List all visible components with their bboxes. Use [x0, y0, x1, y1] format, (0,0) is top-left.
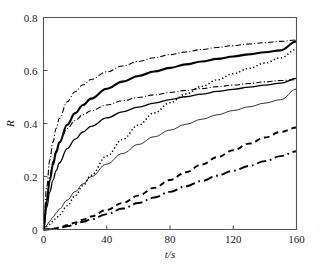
chart-curve-curve-6 — [44, 89, 297, 229]
y-tick-label: 0.4 — [24, 118, 38, 130]
x-tick-label: 160 — [288, 233, 305, 245]
x-tick-label: 0 — [41, 233, 47, 245]
chart-curve-curve-2 — [44, 41, 297, 229]
chart-curve-curve-4 — [44, 78, 297, 229]
y-tick-label: 0.8 — [24, 12, 38, 24]
x-tick-label: 80 — [165, 233, 177, 245]
y-axis-title: R — [4, 120, 16, 128]
y-axis-tick-labels: 00.20.40.60.8 — [24, 12, 38, 236]
chart-series-group — [44, 40, 297, 229]
y-tick-label: 0.2 — [24, 171, 38, 183]
x-axis-title: t/s — [165, 248, 175, 260]
chart-curve-curve-8 — [44, 151, 297, 229]
chart-curve-curve-7 — [44, 127, 297, 229]
chart-plot-area: 04080120160 00.20.40.60.8 t/s R — [0, 0, 320, 267]
axis-tick-marks — [44, 18, 297, 230]
axis-frame — [44, 18, 297, 230]
x-tick-label: 40 — [101, 233, 113, 245]
x-tick-label: 120 — [225, 233, 242, 245]
chart-figure: 04080120160 00.20.40.60.8 t/s R — [0, 0, 320, 267]
y-tick-label: 0 — [32, 224, 38, 236]
y-tick-label: 0.6 — [24, 65, 38, 77]
x-axis-tick-labels: 04080120160 — [41, 233, 306, 245]
